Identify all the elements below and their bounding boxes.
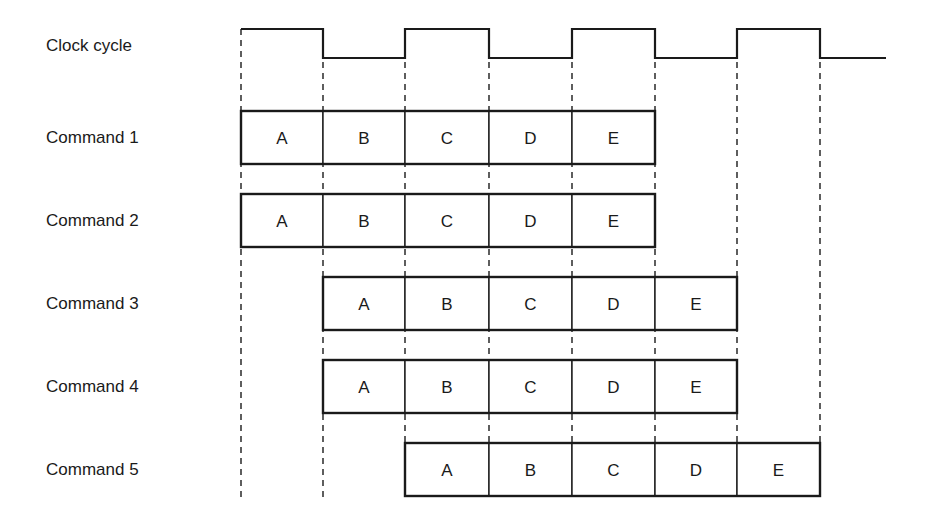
- command-row-3: ABCDE: [323, 277, 737, 330]
- stage-label: B: [358, 212, 369, 231]
- command-row-5: ABCDE: [405, 443, 820, 496]
- stage-label: D: [524, 129, 536, 148]
- command-rows: ABCDEABCDEABCDEABCDEABCDE: [241, 111, 820, 496]
- stage-label: C: [441, 212, 453, 231]
- stage-label: C: [441, 129, 453, 148]
- cycle-boundary-lines: [241, 29, 820, 497]
- stage-label: A: [358, 295, 370, 314]
- timing-canvas: ABCDEABCDEABCDEABCDEABCDE: [0, 0, 930, 529]
- command-row-4: ABCDE: [323, 360, 737, 413]
- pipeline-timing-diagram: Clock cycle Command 1 Command 2 Command …: [0, 0, 930, 529]
- command-row-2: ABCDE: [241, 194, 655, 247]
- stage-label: E: [690, 295, 701, 314]
- stage-label: B: [358, 129, 369, 148]
- stage-label: C: [524, 378, 536, 397]
- stage-label: B: [441, 378, 452, 397]
- stage-label: B: [441, 295, 452, 314]
- stage-label: A: [276, 212, 288, 231]
- stage-label: D: [524, 212, 536, 231]
- stage-label: A: [358, 378, 370, 397]
- clock-waveform: [241, 29, 886, 58]
- stage-label: E: [608, 129, 619, 148]
- stage-label: E: [690, 378, 701, 397]
- stage-label: C: [607, 461, 619, 480]
- stage-label: C: [524, 295, 536, 314]
- command-row-1: ABCDE: [241, 111, 655, 164]
- stage-label: D: [690, 461, 702, 480]
- stage-label: E: [773, 461, 784, 480]
- stage-label: E: [608, 212, 619, 231]
- stage-label: A: [441, 461, 453, 480]
- stage-label: A: [276, 129, 288, 148]
- stage-label: D: [607, 378, 619, 397]
- stage-label: D: [607, 295, 619, 314]
- stage-label: B: [525, 461, 536, 480]
